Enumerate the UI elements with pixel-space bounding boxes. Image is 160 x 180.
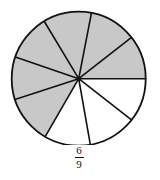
fraction-label: 6 9 [69,145,89,170]
fraction-denominator: 9 [76,158,82,170]
fraction-numerator: 6 [76,144,82,156]
fraction-circle [0,0,160,145]
center-dot [77,77,81,81]
